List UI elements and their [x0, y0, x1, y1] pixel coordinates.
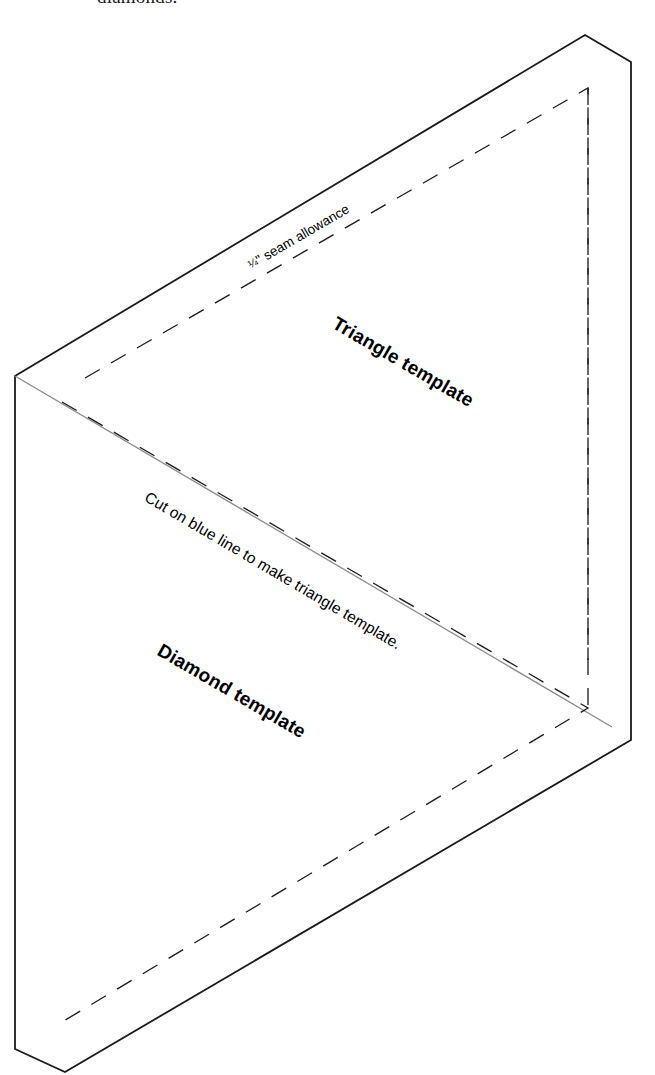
template-diagram-page: diamonds. ¼" seam allowance Triangle tem… — [0, 0, 655, 1075]
quilting-template-figure — [0, 0, 655, 1075]
